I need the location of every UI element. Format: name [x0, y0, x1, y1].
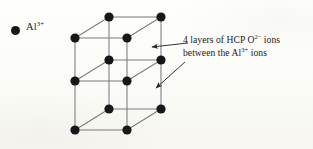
node-bot-front-left	[70, 125, 79, 134]
annotation-line-1: 4 layers of HCP O2− ions	[183, 33, 280, 46]
node-mid-back-right	[156, 55, 165, 64]
annotation-line-2: between the Al3+ ions	[183, 46, 280, 59]
node-top-front-right	[122, 33, 131, 42]
node-mid-front-right	[122, 76, 131, 85]
node-bot-front-right	[122, 125, 131, 134]
edge-bottom-right-diag	[127, 109, 161, 130]
arrow-lower-icon	[156, 62, 185, 88]
lattice-diagram	[0, 0, 313, 149]
annotation-line2-suffix: ions	[248, 47, 267, 58]
node-top-back-right	[156, 12, 165, 21]
edge-top-right-diag	[127, 17, 161, 38]
annotation-line1-prefix: 4 layers of HCP O	[183, 34, 254, 45]
node-top-front-left	[70, 33, 79, 42]
annotation-line2-prefix: between the Al	[183, 47, 241, 58]
annotation-text: 4 layers of HCP O2− ions between the Al3…	[183, 33, 280, 59]
edge-top-left-diag	[75, 17, 109, 38]
edge-mid-right-diag	[127, 60, 161, 81]
edge-mid-left-diag	[75, 60, 109, 81]
lattice-edges	[75, 17, 161, 130]
node-mid-front-left	[70, 76, 79, 85]
figure-root: Al3+	[0, 0, 313, 149]
annotation-line1-suffix: ions	[261, 34, 280, 45]
node-mid-back-left	[104, 55, 113, 64]
node-top-back-left	[104, 12, 113, 21]
node-bot-back-left	[104, 104, 113, 113]
edge-bottom-left-diag	[75, 109, 109, 130]
node-bot-back-right	[156, 104, 165, 113]
lattice-nodes	[70, 12, 165, 134]
